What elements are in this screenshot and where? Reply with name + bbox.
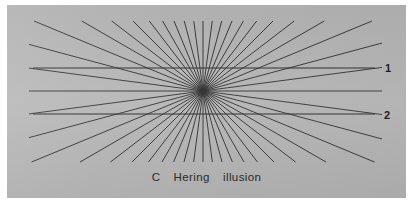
radial-ray bbox=[203, 91, 382, 115]
radial-ray bbox=[203, 21, 324, 91]
hering-illusion-diagram bbox=[7, 5, 406, 198]
hering-illusion-figure: 1 2 C Hering illusion bbox=[0, 0, 413, 203]
radial-ray bbox=[184, 91, 203, 162]
radial-ray bbox=[132, 91, 203, 162]
figure-caption: C Hering illusion bbox=[7, 171, 406, 183]
radial-ray bbox=[203, 21, 222, 91]
radial-ray bbox=[184, 21, 203, 91]
radial-ray bbox=[80, 91, 203, 162]
radial-ray bbox=[203, 91, 382, 139]
radial-ray bbox=[203, 91, 274, 162]
radial-ray bbox=[163, 21, 203, 91]
radial-ray bbox=[203, 21, 372, 91]
radial-ray bbox=[162, 91, 203, 162]
radial-ray bbox=[203, 91, 326, 162]
radial-ray bbox=[34, 21, 203, 91]
radial-ray bbox=[203, 67, 382, 91]
radial-ray bbox=[203, 21, 273, 91]
radial-ray bbox=[203, 91, 244, 162]
radial-ray bbox=[203, 91, 222, 162]
figure-plate: 1 2 C Hering illusion bbox=[7, 5, 406, 198]
radial-ray bbox=[133, 21, 203, 91]
radial-ray bbox=[32, 91, 203, 162]
radial-ray bbox=[203, 43, 382, 91]
radial-ray bbox=[82, 21, 203, 91]
radial-ray bbox=[203, 21, 243, 91]
radial-rays-group bbox=[29, 21, 382, 162]
line-2-label: 2 bbox=[384, 110, 390, 121]
radial-ray bbox=[203, 91, 374, 162]
line-1-label: 1 bbox=[385, 63, 391, 74]
